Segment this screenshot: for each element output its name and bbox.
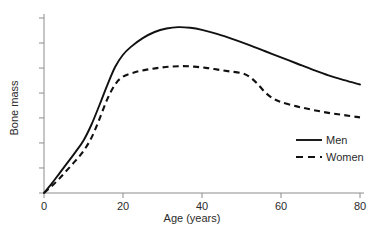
legend-label-men: Men (326, 135, 347, 146)
legend-item-women: Women (296, 150, 364, 164)
x-tick-label: 40 (182, 200, 222, 212)
x-axis-ticks (44, 193, 360, 198)
legend-item-men: Men (296, 133, 364, 147)
y-axis-label: Bone mass (8, 63, 20, 153)
x-tick-label: 60 (261, 200, 301, 212)
legend-swatch-dashed-icon (296, 152, 322, 162)
x-tick-label: 0 (24, 200, 64, 212)
bone-mass-age-chart: 020406080 Age (years) Bone mass Men Wome… (0, 0, 384, 241)
x-axis-label: Age (years) (0, 212, 384, 224)
axes (39, 14, 364, 198)
legend-label-women: Women (326, 152, 364, 163)
y-axis-ticks (39, 18, 44, 193)
series-line-women (44, 66, 360, 193)
x-tick-label: 20 (103, 200, 143, 212)
x-tick-label: 80 (340, 200, 380, 212)
series-line-men (44, 27, 360, 193)
chart-legend: Men Women (296, 133, 364, 164)
legend-swatch-solid-icon (296, 135, 322, 145)
